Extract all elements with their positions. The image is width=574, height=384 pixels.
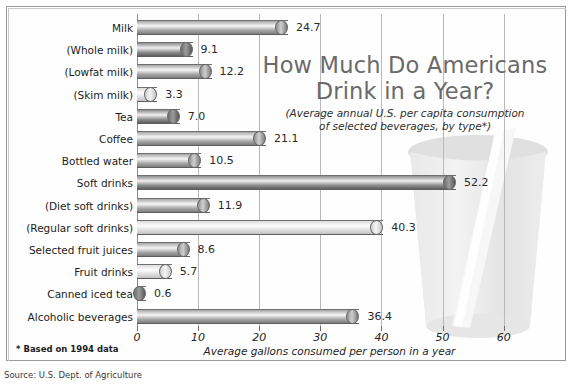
bar-end-cap	[180, 42, 193, 57]
bar-value-label: 3.3	[165, 88, 183, 101]
bar-end-cap	[199, 64, 212, 79]
bar-value-label: 0.6	[154, 287, 172, 300]
bar-value-label: 9.1	[201, 43, 219, 56]
bar-end-cap	[275, 20, 288, 35]
category-label: Bottled water	[3, 155, 133, 167]
bar-value-label: 40.3	[391, 221, 416, 234]
category-label: Milk	[3, 22, 133, 34]
x-tick-label: 20	[252, 331, 266, 344]
bar	[137, 264, 172, 279]
bar-body	[137, 221, 376, 234]
bar-end-cap	[144, 87, 157, 102]
bar-value-label: 24.7	[296, 21, 321, 34]
x-tick-label: 10	[191, 331, 205, 344]
category-label: Soft drinks	[3, 177, 133, 189]
x-tick-label: 0	[134, 331, 141, 344]
category-label: Selected fruit juices	[3, 244, 133, 256]
gridline	[504, 14, 505, 326]
bar-end-cap	[443, 175, 456, 190]
bar-end-cap	[133, 286, 146, 301]
category-label: (Whole milk)	[3, 44, 133, 56]
bar-end-cap	[370, 220, 383, 235]
bar	[137, 309, 359, 324]
bar-body	[137, 65, 205, 78]
bar-body	[137, 154, 194, 167]
gridline	[443, 14, 444, 326]
chart-page: 24.79.112.23.37.021.110.552.211.940.38.6…	[0, 0, 574, 384]
bar-end-cap	[197, 198, 210, 213]
axis-baseline	[137, 14, 138, 326]
bar-value-label: 12.2	[220, 65, 245, 78]
category-label: Alcoholic beverages	[3, 311, 133, 323]
bar	[137, 153, 201, 168]
bar-value-label: 36.4	[367, 310, 392, 323]
bar	[137, 242, 190, 257]
category-label: Fruit drinks	[3, 266, 133, 278]
bar-body	[137, 132, 259, 145]
x-tick-label: 30	[313, 331, 327, 344]
category-label: Coffee	[3, 133, 133, 145]
bar-value-label: 5.7	[180, 265, 198, 278]
bar-value-label: 21.1	[274, 132, 299, 145]
bar	[137, 64, 212, 79]
category-label-column: Milk(Whole milk)(Lowfat milk)(Skim milk)…	[0, 14, 133, 326]
x-tick-label: 40	[374, 331, 388, 344]
bar-end-cap	[177, 242, 190, 257]
bar-body	[137, 199, 203, 212]
bar-body	[137, 21, 281, 34]
bar-end-cap	[253, 131, 266, 146]
category-label: Tea	[3, 111, 133, 123]
plot-area: 24.79.112.23.37.021.110.552.211.940.38.6…	[137, 14, 522, 326]
bar	[137, 131, 266, 146]
category-label: Canned iced tea	[3, 288, 133, 300]
bar-value-label: 8.6	[198, 243, 216, 256]
bar-body	[137, 176, 449, 189]
bar	[137, 286, 146, 301]
footnote: * Based on 1994 data	[16, 344, 119, 354]
bar-end-cap	[159, 264, 172, 279]
bar-value-label: 10.5	[209, 154, 234, 167]
x-tick-label: 60	[497, 331, 511, 344]
bar-body	[137, 310, 352, 323]
source-note: Source: U.S. Dept. of Agriculture	[4, 370, 142, 380]
gridline	[381, 14, 382, 326]
category-label: (Regular soft drinks)	[3, 222, 133, 234]
bar-value-label: 52.2	[464, 176, 489, 189]
bar	[137, 87, 157, 102]
gridline	[320, 14, 321, 326]
bar	[137, 198, 210, 213]
gridline	[198, 14, 199, 326]
gridline	[259, 14, 260, 326]
x-axis-title: Average gallons consumed per person in a…	[137, 345, 522, 357]
bar	[137, 20, 288, 35]
bar-value-label: 7.0	[188, 110, 206, 123]
category-label: (Lowfat milk)	[3, 66, 133, 78]
bar-end-cap	[188, 153, 201, 168]
bar-body	[137, 43, 186, 56]
category-label: (Skim milk)	[3, 89, 133, 101]
bar-body	[137, 243, 183, 256]
bar-value-label: 11.9	[218, 199, 243, 212]
bar	[137, 175, 456, 190]
bar	[137, 42, 193, 57]
bar	[137, 109, 180, 124]
bar-end-cap	[346, 309, 359, 324]
bar-end-cap	[167, 109, 180, 124]
category-label: (Diet soft drinks)	[3, 200, 133, 212]
bar	[137, 220, 383, 235]
x-tick-label: 50	[436, 331, 450, 344]
